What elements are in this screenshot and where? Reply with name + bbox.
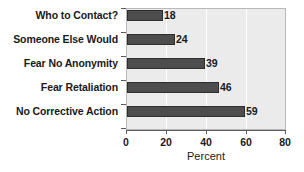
y-tick-5	[121, 128, 126, 129]
x-tick-20	[166, 130, 167, 134]
x-tick-label-20: 20	[160, 136, 172, 148]
x-tick-label-40: 40	[200, 136, 212, 148]
y-tick-2	[121, 56, 126, 57]
x-tick-label-80: 80	[279, 136, 291, 148]
x-tick-label-0: 0	[123, 136, 129, 148]
value-label-0: 18	[164, 10, 176, 21]
bar-2	[127, 58, 205, 69]
y-tick-1	[121, 32, 126, 33]
bar-0	[127, 10, 163, 21]
x-axis-title: Percent	[126, 150, 286, 162]
category-axis-labels: Who to Contact? Someone Else Would Fear …	[0, 8, 122, 130]
x-tick-0	[126, 130, 127, 134]
category-label-3: Fear Retaliation	[0, 82, 118, 93]
value-label-1: 24	[176, 34, 188, 45]
x-tick-60	[246, 130, 247, 134]
category-label-2: Fear No Anonymity	[0, 58, 118, 69]
y-tick-0	[121, 8, 126, 9]
y-tick-4	[121, 104, 126, 105]
bar-1	[127, 34, 175, 45]
x-tick-80	[285, 130, 286, 134]
value-label-4: 59	[246, 106, 258, 117]
bar-3	[127, 82, 219, 93]
value-label-3: 46	[220, 82, 232, 93]
value-label-2: 39	[206, 58, 218, 69]
y-tick-3	[121, 80, 126, 81]
category-label-0: Who to Contact?	[0, 10, 118, 21]
x-tick-40	[206, 130, 207, 134]
category-label-1: Someone Else Would	[0, 34, 118, 45]
bar-chart: Who to Contact? Someone Else Would Fear …	[0, 0, 304, 172]
category-label-4: No Corrective Action	[0, 106, 118, 117]
bar-4	[127, 106, 245, 117]
x-tick-label-60: 60	[240, 136, 252, 148]
plot-area	[126, 8, 286, 130]
